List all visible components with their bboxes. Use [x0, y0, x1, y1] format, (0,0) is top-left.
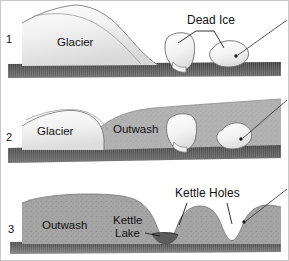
panel-2-number: 2	[6, 131, 12, 143]
kettle-hole-formation-diagram: 1 Glacier Dead Ice	[0, 0, 289, 261]
panel-1-glacier-label: Glacier	[57, 36, 94, 48]
panel-1-number: 1	[6, 33, 12, 45]
panel-2-glacier-label: Glacier	[37, 125, 74, 137]
panel-2-outwash-label: Outwash	[113, 123, 158, 135]
panel-3-number: 3	[8, 223, 14, 235]
diagram-canvas: 1 Glacier Dead Ice	[0, 0, 289, 261]
panel-3-kettle-lake-label-line2: Lake	[115, 227, 140, 239]
panel-3-kettle-lake-label-line1: Kettle	[113, 214, 142, 226]
panel-3-outwash-label: Outwash	[42, 219, 87, 231]
panel-1-dead-ice-label: Dead Ice	[187, 13, 235, 27]
panel-3-kettle-holes-label: Kettle Holes	[175, 186, 240, 200]
